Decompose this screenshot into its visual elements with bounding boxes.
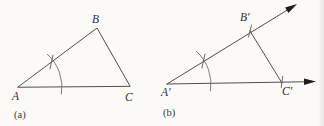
compass-arc-at-a	[47, 54, 62, 94]
construction-diagram: A B C (a) A′ B′ C′ (b)	[0, 0, 324, 126]
figure-b-caption: (b)	[163, 107, 176, 119]
vertex-label-b-prime: B′	[240, 11, 250, 23]
ray-a-prime-c-prime	[167, 82, 304, 84]
compass-arc-at-a-prime	[196, 51, 211, 91]
vertex-label-a: A	[11, 90, 20, 102]
arrowhead-icon-right	[304, 78, 316, 85]
figure-a-caption: (a)	[14, 109, 26, 121]
vertex-label-a-prime: A′	[160, 86, 171, 98]
tick-at-b-prime	[249, 25, 252, 37]
vertex-label-c: C	[125, 91, 133, 103]
figure-b: A′ B′ C′ (b)	[160, 4, 316, 119]
ray-a-prime-b-prime	[167, 9, 289, 84]
diagram-svg: A B C (a) A′ B′ C′ (b)	[0, 0, 324, 126]
triangle-abc	[18, 28, 130, 87]
vertex-label-c-prime: C′	[282, 85, 293, 97]
vertex-label-b: B	[92, 13, 99, 25]
figure-a: A B C (a)	[11, 13, 133, 121]
segment-b-prime-c-prime	[250, 31, 282, 83]
arrowhead-icon-upper	[285, 4, 297, 13]
